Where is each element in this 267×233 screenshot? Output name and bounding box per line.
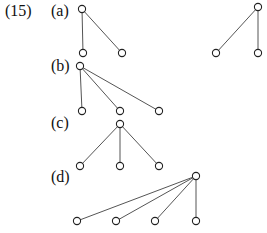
leaf-node [254,49,261,56]
edge [116,176,196,221]
leaf-node [212,49,219,56]
edge [155,176,196,221]
edge [80,66,120,111]
tree-a-0 [78,5,125,56]
edge [82,9,83,53]
leaf-node [73,217,80,224]
root-node [76,62,83,69]
leaf-node [118,49,125,56]
leaf-node [79,49,86,56]
edge [77,176,196,221]
leaf-node [112,217,119,224]
edge [80,66,82,111]
root-node [192,172,199,179]
root-node [254,3,261,10]
edge [80,124,120,166]
tree-c-0 [76,120,162,169]
edge [80,66,159,111]
root-node [116,120,123,127]
leaf-node [155,107,162,114]
leaf-node [151,217,158,224]
leaf-node [155,162,162,169]
edge [120,124,159,166]
leaf-node [192,217,199,224]
leaf-node [78,107,85,114]
leaf-node [116,162,123,169]
root-node [78,5,85,12]
edge [216,7,258,53]
leaf-node [116,107,123,114]
leaf-node [76,162,83,169]
tree-a-1 [212,3,261,56]
tree-b-0 [76,62,162,114]
tree-diagram [0,0,267,233]
edge [82,9,122,53]
tree-d-0 [73,172,199,224]
